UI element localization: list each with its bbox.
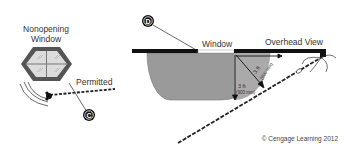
rope-left	[45, 89, 115, 101]
dim-vertical: 3 ft	[238, 83, 246, 89]
overhead-view-label: Overhead View	[265, 37, 324, 47]
diagram-canvas: Nonopening Window Permitted C D Wind	[0, 0, 347, 165]
callout-c-leader	[69, 83, 87, 112]
wall-left	[132, 49, 198, 53]
permitted-label: Permitted	[76, 77, 113, 87]
window-label: Window	[202, 39, 233, 49]
copyright-text: © Cengage Learning 2012	[262, 135, 339, 143]
callout-c-text: C	[86, 112, 91, 119]
callout-d-text: D	[145, 18, 150, 25]
swing-arcs	[20, 82, 48, 106]
nonopening-label-line1: Nonopening	[23, 24, 69, 34]
dim-vertical-metric: (900 mm)	[236, 90, 256, 95]
nonopening-label-line2: Window	[31, 34, 62, 44]
nonopening-window-icon	[21, 47, 72, 81]
wall-right	[234, 49, 324, 53]
callout-d-leader	[153, 25, 198, 51]
window-opening	[198, 50, 234, 53]
